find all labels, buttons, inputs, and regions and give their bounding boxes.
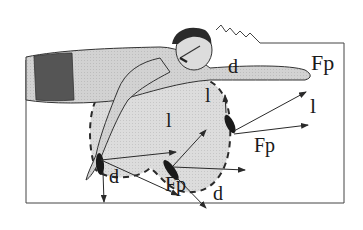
vector-d-1 <box>103 172 104 202</box>
vector-l-3 <box>234 125 308 134</box>
label-fp_top: Fp <box>311 52 334 74</box>
vector-fp-3 <box>234 92 306 131</box>
label-fp_bottom: Fp <box>165 174 186 194</box>
swim-trunks <box>34 53 74 101</box>
label-l_mid: l <box>166 110 172 130</box>
label-l_right: l <box>310 95 316 117</box>
label-d_bottom_left: d <box>109 166 119 186</box>
label-l_mid_upper: l <box>205 85 211 105</box>
label-fp_mid: Fp <box>254 135 275 155</box>
swimmer-force-diagram <box>0 0 363 230</box>
label-d_top: d <box>228 56 238 76</box>
label-d_bottom_right: d <box>213 183 223 203</box>
